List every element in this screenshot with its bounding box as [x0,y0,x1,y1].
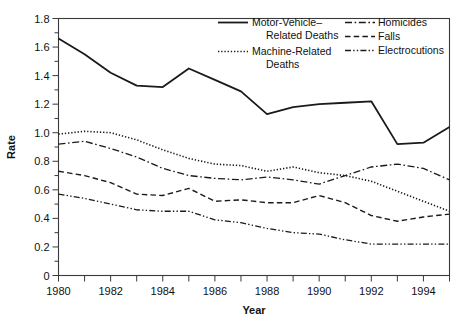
legend-label-4: Electrocutions [378,44,444,56]
x-tick-label: 1986 [203,285,227,297]
y-tick-label: 1.6 [34,41,49,53]
legend-label-2: Homicides [378,16,427,28]
x-tick-label: 1984 [151,285,175,297]
x-tick-label: 1994 [411,285,435,297]
x-tick-label: 1988 [255,285,279,297]
y-tick-label: 0 [43,270,49,282]
y-tick-label: 1.4 [34,70,49,82]
x-axis-title: Year [242,304,266,316]
y-tick-label: 0.6 [34,184,49,196]
legend-label-3: Falls [378,30,400,42]
y-tick-label: 0.2 [34,241,49,253]
y-tick-label: 0.8 [34,155,49,167]
y-tick-label: 1.2 [34,98,49,110]
x-tick-label: 1980 [46,285,70,297]
y-tick-label: 1.0 [34,127,49,139]
chart-canvas: 00.20.40.60.81.01.21.41.61.8 19801982198… [0,0,463,326]
y-tick-label: 1.8 [34,13,49,25]
y-tick-label: 0.4 [34,212,49,224]
line-chart: 00.20.40.60.81.01.21.41.61.8 19801982198… [0,0,463,326]
y-axis-title: Rate [5,135,17,159]
legend-label-1: Machine-Related [252,45,332,57]
legend-label-1-line2: Deaths [266,58,299,70]
x-tick-label: 1992 [359,285,383,297]
legend-label-0: Motor-Vehicle– [252,16,322,28]
legend-label-0-line2: Related Deaths [266,29,338,41]
x-tick-label: 1990 [307,285,331,297]
x-tick-label: 1982 [98,285,122,297]
